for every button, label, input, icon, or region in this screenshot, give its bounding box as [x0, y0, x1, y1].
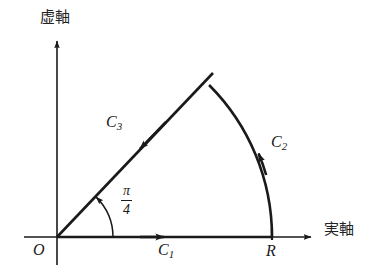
- contour-label-c2-subscript: 2: [282, 140, 288, 152]
- contour-c3-segment: [57, 73, 213, 237]
- contour-label-c3: C3: [106, 114, 122, 130]
- angle-numerator: π: [121, 184, 132, 200]
- radius-label: R: [266, 243, 276, 259]
- complex-plane-contour-figure: 虚軸 実軸 O R C1 C2 C3 π 4: [0, 0, 380, 277]
- figure-canvas: [0, 0, 380, 277]
- contour-label-c3-subscript: 3: [117, 120, 123, 132]
- angle-arc: [96, 197, 113, 237]
- contour-label-c2: C2: [271, 134, 287, 150]
- angle-denominator: 4: [121, 202, 132, 218]
- contour-label-c2-base: C: [271, 133, 282, 150]
- angle-label-pi-over-4: π 4: [121, 184, 132, 217]
- contour-label-c3-base: C: [106, 113, 117, 130]
- real-axis-label: 実軸: [324, 222, 354, 237]
- contour-label-c1-base: C: [158, 241, 169, 258]
- origin-label: O: [33, 242, 45, 258]
- contour-label-c1: C1: [158, 242, 174, 258]
- fraction-bar: [121, 200, 132, 201]
- contour-label-c1-subscript: 1: [169, 248, 175, 260]
- contour-c3-direction-arrow: [140, 122, 166, 149]
- imaginary-axis-label: 虚軸: [40, 10, 70, 25]
